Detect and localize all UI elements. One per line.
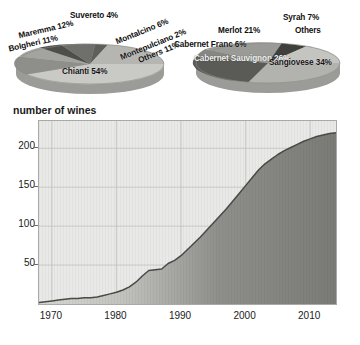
y-tick-200: 200 — [18, 140, 35, 151]
x-tick-2010: 2010 — [298, 310, 320, 321]
appellation-pie-chart: Bolgheri 11% Maremma 12% Suvereto 4% Mon… — [0, 0, 178, 100]
pie-slice-label-cabernet-sauvignon: Cabernet Sauvignon 26% — [194, 54, 266, 63]
x-tick-2000: 2000 — [233, 310, 255, 321]
area-series-graphic — [39, 121, 336, 304]
pie-slice-label-syrah: Syrah 7% — [283, 13, 319, 22]
pie-chart-section: Bolgheri 11% Maremma 12% Suvereto 4% Mon… — [0, 0, 360, 100]
wine-statistics-figure: Bolgheri 11% Maremma 12% Suvereto 4% Mon… — [0, 0, 360, 345]
pie-slice-label-others: Others — [295, 26, 321, 35]
wines-over-time-chart: number of wines 50100150200 197019801990… — [0, 100, 360, 345]
plot-area — [38, 120, 337, 305]
x-tick-1970: 1970 — [40, 310, 62, 321]
y-tick-50: 50 — [24, 257, 35, 268]
grape-variety-pie-graphic — [178, 0, 360, 100]
pie-slice-label-suvereto: Suvereto 4% — [70, 11, 118, 20]
y-tickmark-150 — [34, 186, 38, 187]
y-tick-100: 100 — [18, 218, 35, 229]
y-tickmark-200 — [34, 147, 38, 148]
y-tick-150: 150 — [18, 179, 35, 190]
pie-slice-label-chianti: Chianti 54% — [62, 67, 107, 76]
x-tick-1980: 1980 — [104, 310, 126, 321]
grape-variety-pie-chart: Syrah 7% Others Merlot 21% Cabernet Fran… — [178, 0, 358, 100]
pie-slice-label-cabernet-franc: Cabernet Franc 6% — [174, 40, 246, 49]
pie-slice-label-sangiovese: Sangiovese 34% — [269, 58, 332, 67]
x-tick-1990: 1990 — [169, 310, 191, 321]
y-tickmark-50 — [34, 264, 38, 265]
y-axis-title: number of wines — [13, 104, 96, 116]
pie-slice-label-merlot: Merlot 21% — [218, 26, 260, 35]
y-tickmark-100 — [34, 225, 38, 226]
